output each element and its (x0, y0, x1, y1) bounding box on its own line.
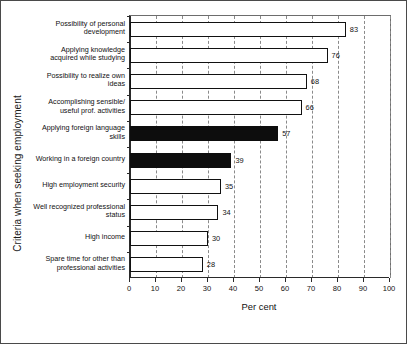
x-axis-tick (389, 278, 390, 282)
y-axis-tick (127, 147, 130, 148)
x-axis-tick (207, 278, 208, 282)
plot-area: 83766866573935343028 (129, 15, 391, 278)
bar-value-label: 34 (222, 208, 230, 217)
x-axis-tick-label: 60 (281, 284, 289, 293)
bar (130, 74, 307, 89)
bar-value-label: 30 (212, 234, 220, 243)
bar-value-label: 35 (225, 182, 233, 191)
x-axis: 0102030405060708090100 (129, 277, 389, 278)
category-label: Accomplishing sensible/useful prof. acti… (25, 98, 125, 115)
bar-value-label: 57 (282, 129, 290, 138)
y-axis-tick (127, 173, 130, 174)
category-label: Well recognized professionalstatus (25, 203, 125, 220)
x-axis-tick-label: 20 (177, 284, 185, 293)
bar (130, 153, 231, 168)
category-label-column: Possibility of personaldevelopmentApplyi… (25, 15, 125, 277)
category-label: High income (25, 233, 125, 242)
y-axis-tick (127, 252, 130, 253)
category-label: Spare time for other thanprofessional ac… (25, 255, 125, 272)
bar (130, 48, 328, 63)
x-axis-tick-label: 50 (255, 284, 263, 293)
x-axis-tick-label: 40 (229, 284, 237, 293)
category-label: Working in a foreign country (25, 155, 125, 164)
category-label: Applying foreign languageskills (25, 124, 125, 141)
x-axis-tick (285, 278, 286, 282)
x-axis-tick (259, 278, 260, 282)
y-axis-tick (127, 42, 130, 43)
gridline-100 (390, 16, 391, 278)
bar (130, 126, 278, 141)
x-axis-tick-label: 70 (307, 284, 315, 293)
bar-value-label: 39 (235, 156, 243, 165)
x-axis-tick (311, 278, 312, 282)
gridline-90 (364, 16, 365, 278)
y-axis-tick (127, 226, 130, 227)
x-axis-tick (181, 278, 182, 282)
x-axis-tick (155, 278, 156, 282)
x-axis-tick (337, 278, 338, 282)
bar-value-label: 83 (350, 25, 358, 34)
bar-value-label: 66 (306, 103, 314, 112)
category-label: Applying knowledgeacquired while studyin… (25, 46, 125, 63)
bar (130, 22, 346, 37)
y-axis-tick (127, 199, 130, 200)
chart-figure: Criteria when seeking employment Possibi… (0, 0, 407, 344)
bar-value-label: 68 (311, 77, 319, 86)
category-label: Possibility to realize ownideas (25, 72, 125, 89)
x-axis-tick-label: 80 (333, 284, 341, 293)
category-label: High employment security (25, 181, 125, 190)
y-axis-tick (127, 68, 130, 69)
y-axis-title: Criteria when seeking employment (9, 1, 25, 344)
x-axis-tick (363, 278, 364, 282)
y-axis-tick (127, 95, 130, 96)
y-axis-tick (127, 121, 130, 122)
bar (130, 231, 208, 246)
x-axis-tick-label: 90 (359, 284, 367, 293)
bar-value-label: 28 (207, 260, 215, 269)
category-label: Possibility of personaldevelopment (25, 20, 125, 37)
x-axis-title: Per cent (129, 301, 389, 312)
x-axis-tick (129, 278, 130, 282)
bar (130, 179, 221, 194)
bar (130, 257, 203, 272)
x-axis-tick (233, 278, 234, 282)
bar (130, 100, 302, 115)
y-axis-title-label: Criteria when seeking employment (12, 95, 23, 252)
x-axis-tick-label: 30 (203, 284, 211, 293)
y-axis-tick (127, 16, 130, 17)
x-axis-tick-label: 100 (383, 284, 396, 293)
x-axis-tick-label: 10 (151, 284, 159, 293)
x-axis-tick-label: 0 (127, 284, 131, 293)
bar-value-label: 76 (332, 51, 340, 60)
bar (130, 205, 218, 220)
